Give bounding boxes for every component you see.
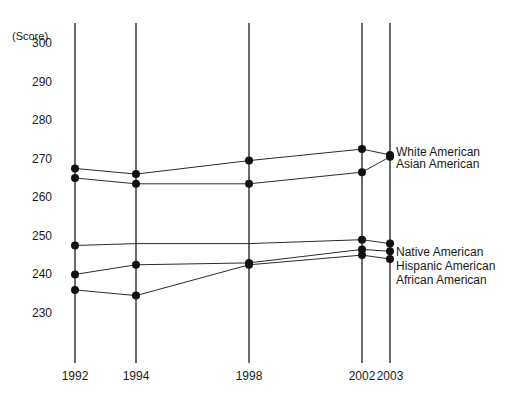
series-polylines: [75, 149, 390, 296]
data-point-marker: [245, 261, 253, 269]
plot-area: [0, 0, 509, 399]
data-point-marker: [358, 251, 366, 259]
series-line: [75, 255, 390, 296]
data-point-marker: [386, 247, 394, 255]
series-line: [75, 157, 390, 184]
data-point-marker: [245, 157, 253, 165]
data-point-marker: [358, 168, 366, 176]
data-point-marker: [358, 236, 366, 244]
data-point-marker: [132, 180, 140, 188]
data-point-marker: [132, 170, 140, 178]
data-point-marker: [386, 240, 394, 248]
series-line: [75, 249, 390, 274]
data-point-marker: [71, 242, 79, 250]
data-point-marker: [132, 261, 140, 269]
data-point-marker: [245, 180, 253, 188]
data-point-marker: [132, 292, 140, 300]
data-point-marker: [71, 286, 79, 294]
data-point-marker: [71, 164, 79, 172]
data-point-marker: [358, 145, 366, 153]
data-point-marker: [71, 270, 79, 278]
data-point-marker: [386, 255, 394, 263]
data-point-marker: [71, 174, 79, 182]
category-axis-lines: [75, 23, 390, 363]
series-line: [75, 240, 390, 246]
data-point-marker: [386, 153, 394, 161]
series-line: [75, 149, 390, 174]
score-trend-line-chart: (Score) 300290280270260250240230 1992199…: [0, 0, 509, 399]
series-markers: [71, 145, 394, 300]
